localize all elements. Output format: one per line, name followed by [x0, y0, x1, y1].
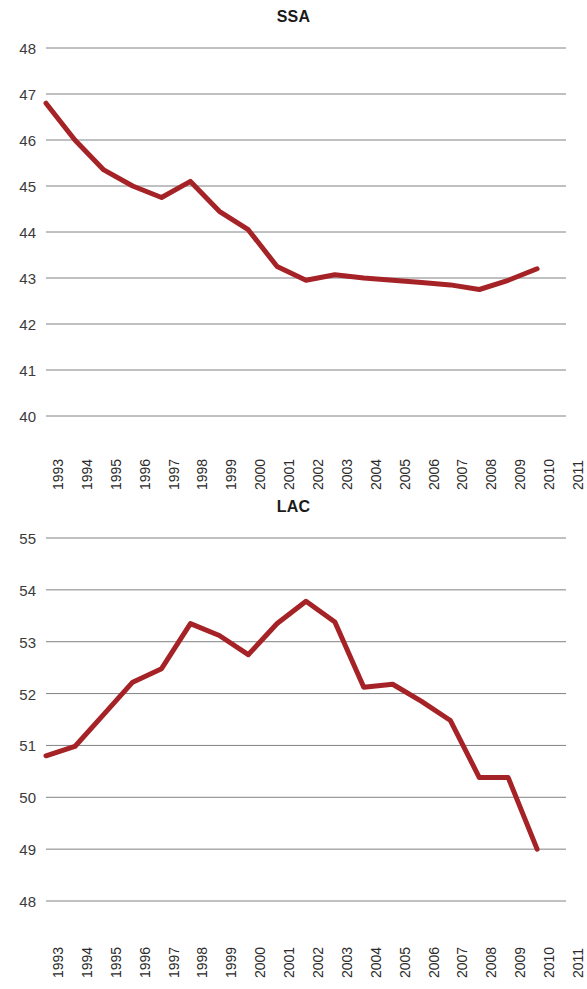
x-tick-label: 1996	[138, 459, 152, 490]
x-tick-label: 2011	[571, 460, 585, 490]
y-tick-label: 46	[0, 133, 36, 148]
y-tick-label: 53	[0, 634, 36, 649]
chart-title-lac: LAC	[0, 498, 587, 516]
y-tick-label: 45	[0, 179, 36, 194]
x-tick-label: 2002	[311, 459, 325, 490]
plot-svg-ssa	[46, 48, 566, 416]
x-tick-label: 2010	[542, 459, 556, 490]
y-tick-label: 47	[0, 87, 36, 102]
x-tick-label: 2002	[311, 947, 325, 978]
x-tick-label: 1994	[80, 947, 94, 978]
x-tick-label: 2003	[340, 947, 354, 978]
y-tick-label: 43	[0, 271, 36, 286]
chart-title-ssa: SSA	[0, 8, 587, 26]
y-tick-label: 41	[0, 363, 36, 378]
chart-lac: LAC 5554535251504948 1993199419951996199…	[0, 492, 587, 989]
y-tick-label: 52	[0, 686, 36, 701]
x-tick-label: 2008	[484, 459, 498, 490]
y-tick-label: 48	[0, 41, 36, 56]
x-tick-label: 1995	[109, 459, 123, 490]
x-tick-label: 2004	[369, 459, 383, 490]
y-tick-label: 50	[0, 790, 36, 805]
x-tick-label: 2006	[427, 459, 441, 490]
x-tick-label: 2003	[340, 459, 354, 490]
y-tick-label: 51	[0, 738, 36, 753]
chart-ssa: SSA 484746454443424140 19931994199519961…	[0, 0, 587, 492]
x-tick-label: 2001	[282, 459, 296, 490]
x-tick-label: 1999	[224, 947, 238, 978]
x-tick-label: 2011	[571, 948, 585, 978]
x-tick-label: 1997	[167, 459, 181, 490]
x-tick-label: 2009	[513, 947, 527, 978]
y-tick-label: 42	[0, 317, 36, 332]
y-tick-label: 55	[0, 531, 36, 546]
x-tick-label: 1994	[80, 459, 94, 490]
x-tick-label: 2001	[282, 947, 296, 978]
data-series-line	[46, 601, 537, 849]
y-tick-label: 54	[0, 582, 36, 597]
x-tick-label: 2007	[455, 459, 469, 490]
x-tick-label: 1999	[224, 459, 238, 490]
x-tick-label: 2008	[484, 947, 498, 978]
y-tick-label: 44	[0, 225, 36, 240]
plot-area-lac	[46, 538, 566, 901]
x-tick-label: 1993	[51, 947, 65, 978]
x-tick-label: 2005	[398, 459, 412, 490]
x-tick-label: 1998	[195, 459, 209, 490]
x-tick-label: 2004	[369, 947, 383, 978]
x-tick-label: 2009	[513, 459, 527, 490]
x-tick-label: 2007	[455, 947, 469, 978]
x-tick-label: 1997	[167, 947, 181, 978]
x-tick-label: 2006	[427, 947, 441, 978]
x-tick-label: 2005	[398, 947, 412, 978]
x-tick-label: 1993	[51, 459, 65, 490]
y-tick-label: 48	[0, 894, 36, 909]
x-tick-label: 2010	[542, 947, 556, 978]
x-tick-label: 1995	[109, 947, 123, 978]
x-tick-label: 2000	[253, 947, 267, 978]
plot-svg-lac	[46, 538, 566, 901]
plot-area-ssa	[46, 48, 566, 416]
x-tick-label: 1998	[195, 947, 209, 978]
data-series-line	[46, 103, 537, 289]
x-tick-label: 1996	[138, 947, 152, 978]
y-tick-label: 40	[0, 409, 36, 424]
y-tick-label: 49	[0, 842, 36, 857]
x-tick-label: 2000	[253, 459, 267, 490]
